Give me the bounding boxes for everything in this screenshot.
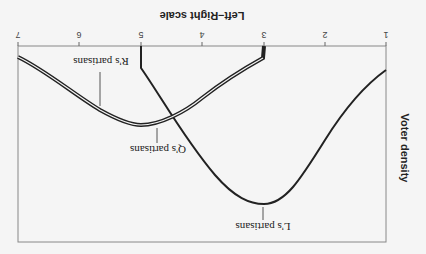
tick-label-7: 7 [15,30,20,40]
l-partisans-label: L's partisans [236,221,291,233]
y-axis-title: Voter density [399,114,411,184]
plot-frame [18,46,386,242]
x-axis-tick-labels: 1 2 3 4 5 6 7 [15,30,388,40]
r-partisans-label: R's partisans [73,56,128,68]
x-axis-ticks [18,42,386,48]
x-axis-title: Left–Right scale [160,10,245,22]
tick-label-5: 5 [138,30,143,40]
tick-label-6: 6 [76,30,81,40]
tick-label-1: 1 [383,30,388,40]
tick-label-3: 3 [261,30,266,40]
tick-label-2: 2 [322,30,327,40]
partisan-density-figure: 1 2 3 4 5 6 7 Left–Right scale Voter den… [0,0,426,254]
q-partisans-label: Q's partisans [130,144,186,156]
tick-label-4: 4 [199,30,204,40]
figure-canvas: 1 2 3 4 5 6 7 Left–Right scale Voter den… [0,0,426,254]
l-partisans-curve [141,46,386,204]
